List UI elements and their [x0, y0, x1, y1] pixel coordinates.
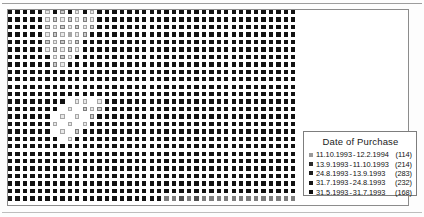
map-cell [23, 166, 27, 170]
map-cell [105, 144, 109, 148]
map-cell [239, 174, 243, 178]
map-cell [276, 62, 280, 66]
map-cell [75, 129, 79, 133]
map-cell [53, 174, 57, 178]
map-cell [68, 92, 72, 96]
map-cell [83, 159, 87, 163]
map-cell [157, 62, 161, 66]
map-cell [127, 122, 131, 126]
map-cell [53, 122, 57, 126]
map-cell [8, 32, 12, 36]
map-cell [217, 47, 221, 51]
map-cell [209, 122, 213, 126]
map-cell [172, 32, 176, 36]
map-cell [30, 107, 34, 111]
map-cell [187, 10, 191, 14]
map-cell [15, 144, 19, 148]
map-cell [284, 144, 288, 148]
map-cell [239, 10, 243, 14]
map-cell [261, 189, 265, 193]
map-cell [45, 32, 49, 36]
map-cell [53, 47, 57, 51]
map-cell [127, 25, 131, 29]
map-cell [83, 144, 87, 148]
legend-item[interactable]: 31.5.1993-31.7.1993(168) [309, 188, 412, 197]
map-cell [232, 92, 236, 96]
map-cell [120, 137, 124, 141]
map-cell [127, 181, 131, 185]
map-cell [187, 25, 191, 29]
map-cell [284, 152, 288, 156]
map-cell [261, 10, 265, 14]
map-cell [127, 189, 131, 193]
map-cell [254, 137, 258, 141]
map-cell [68, 107, 72, 111]
map-cell [194, 92, 198, 96]
map-cell [291, 129, 295, 133]
map-cell [291, 137, 295, 141]
map-cell [202, 196, 206, 200]
map-cell [45, 107, 49, 111]
map-cell [45, 92, 49, 96]
map-cell [120, 159, 124, 163]
map-cell [120, 62, 124, 66]
map-cell [246, 99, 250, 103]
map-cell [261, 159, 265, 163]
map-cell [276, 129, 280, 133]
map-cell [164, 107, 168, 111]
map-cell [246, 137, 250, 141]
map-cell [90, 174, 94, 178]
map-cell [127, 174, 131, 178]
map-cell [142, 107, 146, 111]
map-cell [68, 196, 72, 200]
map-cell [217, 99, 221, 103]
map-cell [202, 107, 206, 111]
map-cell [97, 114, 101, 118]
map-cell [246, 174, 250, 178]
map-cell [97, 174, 101, 178]
map-cell [224, 174, 228, 178]
map-cell [217, 137, 221, 141]
map-cell [15, 47, 19, 51]
legend-item[interactable]: 13.9.1993-11.10.1993(214) [309, 159, 412, 168]
map-cell [209, 85, 213, 89]
map-cell [217, 122, 221, 126]
map-cell [194, 122, 198, 126]
map-cell [38, 62, 42, 66]
map-cell [179, 62, 183, 66]
map-cell [105, 10, 109, 14]
map-cell [90, 107, 94, 111]
map-cell [224, 137, 228, 141]
map-cell [232, 10, 236, 14]
map-cell [217, 17, 221, 21]
map-cell [112, 129, 116, 133]
map-cell [30, 99, 34, 103]
map-cell [202, 17, 206, 21]
map-cell [194, 107, 198, 111]
map-cell [217, 196, 221, 200]
map-cell [75, 137, 79, 141]
map-cell [224, 107, 228, 111]
legend-item[interactable]: 11.10.1993-12.2.1994(114) [309, 150, 412, 159]
map-cell [15, 40, 19, 44]
map-cell [15, 166, 19, 170]
map-cell [172, 70, 176, 74]
map-cell [239, 107, 243, 111]
map-cell [209, 55, 213, 59]
map-cell [172, 181, 176, 185]
map-cell [284, 32, 288, 36]
map-cell [112, 137, 116, 141]
map-cell [30, 40, 34, 44]
map-cell [164, 196, 168, 200]
map-cell [8, 174, 12, 178]
map-cell [157, 122, 161, 126]
map-cell [75, 62, 79, 66]
legend-count: (114) [392, 150, 412, 159]
map-cell [261, 152, 265, 156]
map-cell [194, 196, 198, 200]
map-cell [15, 62, 19, 66]
legend-item[interactable]: 31.7.1993-24.8.1993(232) [309, 178, 412, 187]
map-cell [291, 99, 295, 103]
map-cell [194, 70, 198, 74]
legend-item[interactable]: 24.8.1993-13.9.1993(283) [309, 169, 412, 178]
